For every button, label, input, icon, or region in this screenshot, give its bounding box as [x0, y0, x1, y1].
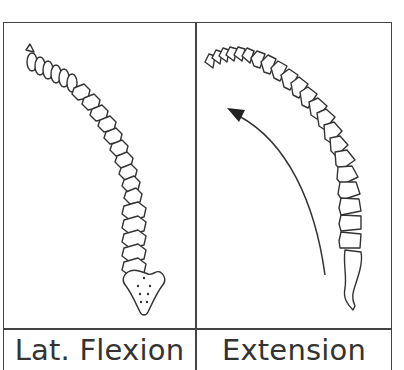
spine-extension-icon	[197, 22, 391, 329]
label-lateral-flexion: Lat. Flexion	[4, 329, 195, 370]
panel-extension	[197, 22, 391, 329]
panel-lateral-flexion	[4, 22, 196, 329]
curved-arrow-icon	[239, 116, 325, 275]
spine-lateral-flexion-icon	[4, 22, 196, 329]
label-extension: Extension	[197, 329, 391, 370]
